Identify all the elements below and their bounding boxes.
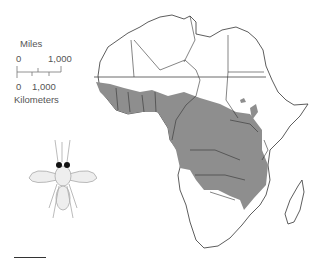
madagascar: [285, 180, 304, 224]
size-bar: [14, 257, 46, 258]
km-tick-0: 0: [16, 81, 21, 92]
km-label: Kilometers: [14, 94, 59, 105]
miles-tick-0: 0: [16, 53, 21, 64]
km-tick-1000: 1,000: [32, 81, 56, 92]
tsetse-fly-icon: [25, 138, 97, 238]
miles-label: Miles: [20, 38, 42, 49]
miles-tick-1000: 1,000: [48, 53, 72, 64]
scale-bar: [16, 66, 62, 78]
